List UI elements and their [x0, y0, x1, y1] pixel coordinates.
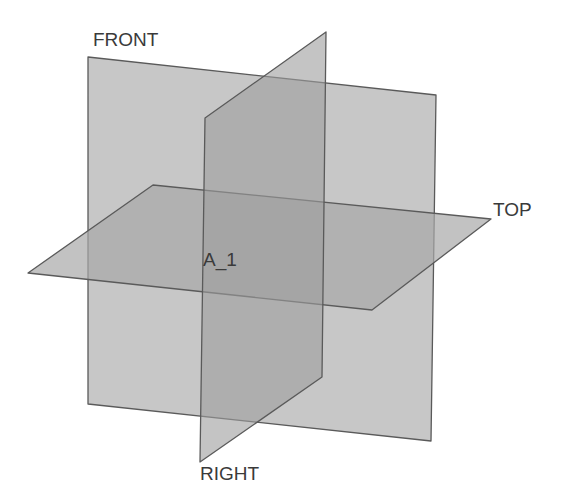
- top-plane-label: TOP: [493, 199, 532, 220]
- datum-planes-diagram: FRONT TOP RIGHT A_1: [0, 0, 565, 489]
- front-plane-label: FRONT: [93, 29, 159, 50]
- right-plane-label: RIGHT: [200, 463, 260, 484]
- origin-axis-label: A_1: [203, 249, 237, 271]
